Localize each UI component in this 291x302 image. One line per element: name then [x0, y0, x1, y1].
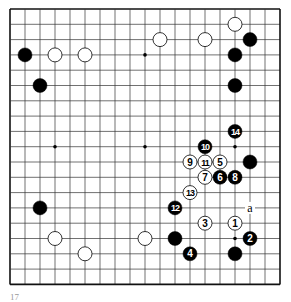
white-stone	[228, 17, 242, 31]
black-stone	[33, 201, 47, 215]
black-stone	[18, 48, 32, 62]
move-number: 3	[202, 218, 208, 229]
move-number: 11	[201, 158, 210, 168]
white-stone	[153, 33, 167, 47]
diagram-caption: 17	[10, 292, 19, 302]
black-stone: 10	[198, 140, 212, 154]
white-stone: 5	[213, 155, 227, 169]
black-stone: 4	[183, 247, 197, 261]
move-number: 12	[171, 203, 180, 213]
move-number: 7	[202, 172, 208, 183]
position-mark-label: a	[247, 201, 253, 215]
move-number: 13	[186, 188, 195, 198]
black-stone	[243, 33, 257, 47]
white-stone: 11	[198, 155, 212, 169]
black-stone	[228, 79, 242, 93]
move-number: 6	[217, 172, 223, 183]
white-stone: 9	[183, 155, 197, 169]
white-stone: 13	[183, 186, 197, 200]
black-stone: 8	[228, 170, 242, 184]
black-stone	[243, 155, 257, 169]
stones-layer: 1410911576813123124	[18, 17, 257, 260]
move-number: 14	[231, 127, 240, 137]
black-stone: 6	[213, 170, 227, 184]
white-stone	[198, 33, 212, 47]
move-number: 5	[217, 157, 223, 168]
star-point	[143, 145, 147, 149]
black-stone	[228, 247, 242, 261]
black-stone	[168, 232, 182, 246]
white-stone	[78, 247, 92, 261]
white-stone	[48, 232, 62, 246]
black-stone: 12	[168, 201, 182, 215]
move-number: 2	[247, 233, 253, 244]
black-stone	[228, 48, 242, 62]
white-stone: 7	[198, 170, 212, 184]
black-stone	[33, 79, 47, 93]
star-point	[53, 145, 57, 149]
white-stone	[78, 48, 92, 62]
star-point	[143, 53, 147, 57]
move-number: 9	[187, 157, 193, 168]
move-number: 8	[232, 172, 238, 183]
move-number: 4	[187, 248, 193, 259]
black-stone: 14	[228, 124, 242, 138]
white-stone	[138, 232, 152, 246]
white-stone: 1	[228, 216, 242, 230]
move-number: 1	[232, 218, 238, 229]
white-stone: 3	[198, 216, 212, 230]
star-point	[233, 237, 237, 241]
board-marks: a	[245, 201, 255, 215]
move-number: 10	[201, 142, 210, 152]
white-stone	[48, 48, 62, 62]
star-point	[233, 145, 237, 149]
black-stone: 2	[243, 232, 257, 246]
